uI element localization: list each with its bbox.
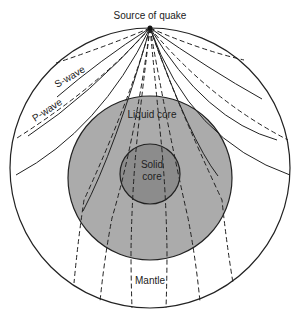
earthquake-wave-diagram: Source of quake S-wave P-wave Liquid cor…	[0, 0, 299, 322]
mantle-label: Mantle	[135, 275, 165, 286]
solid-core-label-line1: Solid	[141, 159, 163, 170]
source-label: Source of quake	[114, 10, 187, 21]
liquid-core-label: Liquid core	[128, 109, 177, 120]
solid-core-label-line2: core	[142, 171, 162, 182]
quake-source-point	[148, 26, 153, 31]
